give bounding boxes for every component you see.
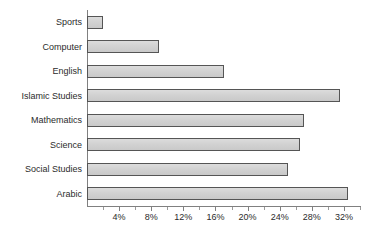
x-tick-label: 24%: [271, 212, 289, 222]
x-tick-major: [215, 207, 216, 211]
bar-row: [87, 133, 300, 158]
category-label-mathematics: Mathematics: [0, 115, 82, 125]
x-tick-minor: [232, 207, 233, 210]
category-label-social-studies: Social Studies: [0, 164, 82, 174]
x-tick-minor: [296, 207, 297, 210]
x-tick-label: 16%: [206, 212, 224, 222]
bar-chart: SportsComputerEnglishIslamic StudiesMath…: [0, 0, 379, 238]
x-tick-major: [312, 207, 313, 211]
category-label-science: Science: [0, 140, 82, 150]
bar-row: [87, 10, 103, 35]
category-label-islamic-studies: Islamic Studies: [0, 91, 82, 101]
x-tick-major: [151, 207, 152, 211]
x-tick-minor: [328, 207, 329, 210]
x-tick-major: [280, 207, 281, 211]
category-label-english: English: [0, 66, 82, 76]
x-tick-minor: [103, 207, 104, 210]
bar-mathematics: [87, 114, 304, 127]
x-tick-minor: [360, 207, 361, 210]
category-label-arabic: Arabic: [0, 189, 82, 199]
x-tick-label: 20%: [239, 212, 257, 222]
x-tick-minor: [199, 207, 200, 210]
x-tick-label: 28%: [303, 212, 321, 222]
bar-social-studies: [87, 163, 288, 176]
bar-computer: [87, 40, 159, 53]
x-tick-major: [119, 207, 120, 211]
bar-row: [87, 157, 288, 182]
x-tick-minor: [264, 207, 265, 210]
bar-row: [87, 108, 304, 133]
bar-science: [87, 138, 300, 151]
x-tick-major: [183, 207, 184, 211]
category-label-sports: Sports: [0, 17, 82, 27]
x-tick-label: 12%: [174, 212, 192, 222]
x-axis-line: [87, 206, 361, 207]
bar-row: [87, 35, 159, 60]
category-label-computer: Computer: [0, 42, 82, 52]
plot-area: [87, 10, 360, 206]
x-tick-minor: [135, 207, 136, 210]
x-tick-label: 32%: [335, 212, 353, 222]
bar-sports: [87, 16, 103, 29]
x-tick-label: 4%: [113, 212, 126, 222]
bar-row: [87, 84, 340, 109]
x-tick-label: 8%: [145, 212, 158, 222]
bar-english: [87, 65, 224, 78]
bar-arabic: [87, 187, 348, 200]
x-tick-major: [248, 207, 249, 211]
bar-islamic-studies: [87, 89, 340, 102]
bar-row: [87, 59, 224, 84]
x-tick-minor: [167, 207, 168, 210]
x-tick-major: [344, 207, 345, 211]
bar-row: [87, 182, 348, 207]
